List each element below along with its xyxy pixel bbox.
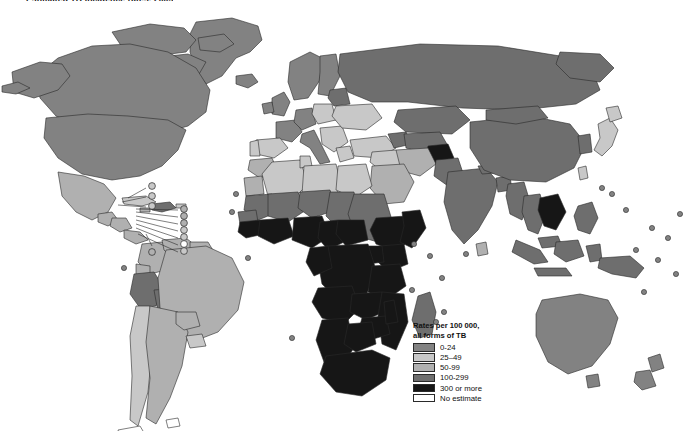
map-region-iceland[interactable] <box>236 74 258 88</box>
legend-swatch <box>413 394 435 403</box>
map-region-new-guinea[interactable] <box>598 256 644 278</box>
legend-label: No estimate <box>440 394 482 403</box>
island-marker-pacific-island-2[interactable] <box>623 207 628 212</box>
map-region-botswana[interactable] <box>344 322 376 352</box>
legend-label: 25–49 <box>440 353 462 362</box>
map-region-poland[interactable] <box>312 104 336 124</box>
map-region-taiwan[interactable] <box>578 166 588 180</box>
callout-st-vincent[interactable] <box>181 241 188 248</box>
map-legend: Rates per 100 000, all forms of TB 0-242… <box>413 321 525 403</box>
island-marker-indian-ocean-island-1[interactable] <box>427 253 432 258</box>
map-region-philippines[interactable] <box>574 202 598 234</box>
map-region-australia[interactable] <box>536 294 618 374</box>
map-region-uruguay[interactable] <box>186 334 206 348</box>
world-map[interactable] <box>0 6 693 431</box>
callout-trinidad[interactable] <box>149 249 156 256</box>
map-region-indonesia-java[interactable] <box>534 268 572 276</box>
map-region-united-states[interactable] <box>44 114 186 180</box>
map-region-antarctica-tip[interactable] <box>118 426 146 431</box>
callout-barbados[interactable] <box>181 234 188 241</box>
legend-label: 50-99 <box>440 363 460 372</box>
map-region-honduras-nicaragua[interactable] <box>110 218 132 232</box>
map-region-falklands[interactable] <box>166 418 180 428</box>
legend-swatch <box>413 374 435 383</box>
legend-swatch <box>413 343 435 352</box>
map-region-south-africa[interactable] <box>320 350 390 396</box>
map-region-korea[interactable] <box>578 134 592 154</box>
map-region-layer <box>2 18 664 431</box>
map-region-portugal[interactable] <box>250 140 260 156</box>
legend-title-line1: Rates per 100 000, <box>413 321 525 331</box>
map-region-western-sahara[interactable] <box>244 176 264 196</box>
island-marker-pacific-island-9[interactable] <box>641 289 646 294</box>
callout-antigua[interactable] <box>181 206 188 213</box>
island-marker-pacific-island-10[interactable] <box>599 185 604 190</box>
legend-swatch <box>413 363 435 372</box>
island-marker-south-atlantic-island[interactable] <box>289 335 294 340</box>
world-map-svg <box>0 6 693 431</box>
legend-swatch <box>413 384 435 393</box>
map-region-kazakhstan[interactable] <box>394 106 470 134</box>
legend-title: Rates per 100 000, all forms of TB <box>413 321 525 340</box>
island-marker-pacific-island-8[interactable] <box>673 271 678 276</box>
map-region-norway-sweden[interactable] <box>288 52 322 100</box>
island-marker-indian-ocean-island-2[interactable] <box>439 275 444 280</box>
island-marker-atlantic-island-1[interactable] <box>233 191 238 196</box>
island-marker-mauritius[interactable] <box>441 309 446 314</box>
page-title: Estimated TB incidence rates, 2005 <box>26 0 173 1</box>
legend-label: 100-299 <box>440 373 469 382</box>
legend-title-line2: all forms of TB <box>413 331 525 341</box>
map-region-jamaica[interactable] <box>140 208 150 212</box>
island-marker-pacific-island-6[interactable] <box>655 257 660 262</box>
callout-turks-caicos[interactable] <box>149 193 156 200</box>
callout-dominica[interactable] <box>181 220 188 227</box>
map-region-borneo[interactable] <box>554 240 584 262</box>
callout-cayman[interactable] <box>149 203 156 210</box>
legend-item[interactable]: 25–49 <box>413 352 525 362</box>
map-region-greece[interactable] <box>336 146 354 162</box>
island-marker-maldives[interactable] <box>463 251 468 256</box>
map-region-japan[interactable] <box>594 118 618 156</box>
island-marker-cape-verde[interactable] <box>229 209 234 214</box>
legend-item[interactable]: 300 or more <box>413 383 525 393</box>
island-marker-pacific-island-4[interactable] <box>665 235 670 240</box>
map-region-baltics[interactable] <box>328 88 350 106</box>
map-region-ireland[interactable] <box>262 102 274 114</box>
legend-item[interactable]: No estimate <box>413 393 525 403</box>
map-region-sri-lanka[interactable] <box>476 242 488 256</box>
legend-item[interactable]: 50-99 <box>413 363 525 373</box>
map-region-india[interactable] <box>444 168 498 244</box>
island-marker-galapagos[interactable] <box>121 265 126 270</box>
callout-leader-line <box>136 220 178 231</box>
callout-st-kitts[interactable] <box>181 213 188 220</box>
island-marker-atlantic-island-2[interactable] <box>245 255 250 260</box>
legend-items: 0-2425–4950-99100-299300 or moreNo estim… <box>413 342 525 403</box>
legend-swatch <box>413 353 435 362</box>
map-region-new-zealand-n[interactable] <box>648 354 664 372</box>
map-region-spain[interactable] <box>256 138 288 158</box>
island-marker-pacific-island-3[interactable] <box>649 225 654 230</box>
callout-leader-line <box>136 212 178 217</box>
island-marker-pacific-island-7[interactable] <box>633 247 638 252</box>
map-region-new-zealand-s[interactable] <box>634 370 656 390</box>
island-marker-pacific-island-5[interactable] <box>677 211 682 216</box>
callout-st-lucia[interactable] <box>181 227 188 234</box>
legend-item[interactable]: 100-299 <box>413 373 525 383</box>
callout-bahamas[interactable] <box>149 183 156 190</box>
map-region-tasmania[interactable] <box>586 374 600 388</box>
island-marker-comoros[interactable] <box>409 287 414 292</box>
island-marker-pacific-island-1[interactable] <box>609 191 614 196</box>
island-marker-indian-ocean-island-3[interactable] <box>411 241 416 246</box>
map-region-cambodia-vietnam[interactable] <box>538 194 566 230</box>
map-region-cote-divoire-ghana[interactable] <box>258 218 294 244</box>
callout-leader-line <box>136 216 178 224</box>
legend-item[interactable]: 0-24 <box>413 342 525 352</box>
callout-grenada[interactable] <box>181 248 188 255</box>
legend-label: 300 or more <box>440 384 482 393</box>
tb-incidence-map-page: Estimated TB incidence rates, 2005 Rates… <box>0 0 693 435</box>
legend-label: 0-24 <box>440 343 456 352</box>
map-region-uk[interactable] <box>272 92 290 116</box>
